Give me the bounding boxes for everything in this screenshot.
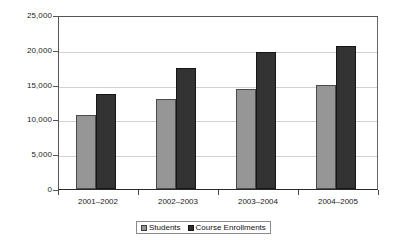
gridline [59, 52, 377, 53]
x-axis-category-label: 2001–2002 [58, 197, 138, 206]
bar-chart: 05,00010,00015,00020,00025,000 2001–2002… [0, 0, 404, 245]
plot-area [58, 16, 378, 190]
legend-item-label: Students [149, 223, 181, 232]
bar-enrollments-2 [176, 68, 196, 189]
students-swatch-icon [141, 225, 147, 231]
x-axis-tick-mark [218, 190, 219, 195]
y-axis-tick-label: 5,000 [4, 151, 52, 159]
bar-students-2 [156, 99, 176, 189]
y-axis-tick-label: 15,000 [4, 82, 52, 90]
x-axis-tick-mark [58, 190, 59, 195]
legend-item: Course Enrollments [188, 223, 266, 232]
bar-enrollments-4 [336, 46, 356, 189]
x-axis-category-label: 2003–2004 [218, 197, 298, 206]
course-enrollments-swatch-icon [188, 225, 194, 231]
bar-enrollments-1 [96, 94, 116, 189]
x-axis-tick-mark [378, 190, 379, 195]
legend-item: Students [141, 223, 181, 232]
y-axis-tick-label: 10,000 [4, 116, 52, 124]
y-axis-tick-label: 0 [4, 186, 52, 194]
chart-legend: StudentsCourse Enrollments [136, 221, 271, 234]
bar-students-1 [76, 115, 96, 189]
y-axis-tick-label: 25,000 [4, 12, 52, 20]
legend-item-label: Course Enrollments [196, 223, 266, 232]
bar-students-4 [316, 85, 336, 189]
bar-students-3 [236, 89, 256, 189]
y-axis-tick-label: 20,000 [4, 47, 52, 55]
bar-enrollments-3 [256, 52, 276, 189]
x-axis-category-label: 2004–2005 [298, 197, 378, 206]
x-axis-category-label: 2002–2003 [138, 197, 218, 206]
x-axis-tick-mark [138, 190, 139, 195]
x-axis-tick-mark [298, 190, 299, 195]
